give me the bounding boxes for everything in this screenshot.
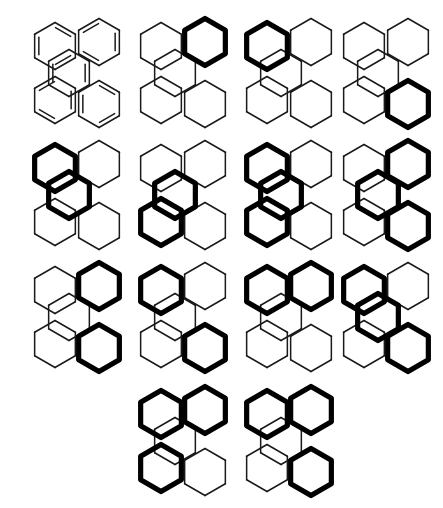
clar-structure-figure (0, 0, 443, 508)
aromatic-sextet-ring-UR (291, 387, 332, 434)
structure-5 (22, 134, 132, 256)
bond (35, 356, 55, 368)
bond (205, 263, 225, 275)
bond (344, 145, 364, 157)
aromatic-sextet-ring-LL (141, 445, 182, 492)
bond (55, 199, 75, 211)
structure-drawing-11 (234, 256, 344, 378)
aromatic-sextet-ring-LR (185, 325, 226, 372)
bond (185, 141, 205, 153)
aromatic-sextet-ring-LL (141, 199, 182, 246)
aromatic-sextet-ring-LL (247, 199, 288, 246)
structure-4 (331, 12, 441, 134)
bond (311, 19, 331, 31)
bond (185, 484, 205, 496)
bond (155, 294, 175, 306)
bond (311, 325, 331, 337)
bond (205, 484, 225, 496)
bond (79, 238, 99, 250)
bond (55, 112, 75, 124)
structure-12 (331, 256, 441, 378)
bond (185, 238, 205, 250)
bond (49, 329, 69, 341)
structure-14 (234, 380, 344, 502)
bond (291, 116, 311, 128)
bond (49, 85, 69, 97)
structure-7 (234, 134, 344, 256)
bond (247, 112, 267, 124)
bond (267, 77, 287, 89)
bond (35, 234, 55, 246)
bond (364, 112, 384, 124)
bond (261, 294, 281, 306)
aromatic-sextet-ring-UR (291, 263, 332, 310)
bond (344, 23, 364, 35)
aromatic-sextet-ring-LR (388, 325, 429, 372)
bond (261, 453, 281, 465)
structure-drawing-1 (22, 12, 132, 134)
bond (291, 360, 311, 372)
bond (205, 238, 225, 250)
structure-drawing-8 (331, 134, 441, 256)
bond (311, 141, 331, 153)
structure-13 (128, 380, 238, 502)
bond (291, 141, 311, 153)
bond (364, 58, 384, 70)
structure-drawing-13 (128, 380, 238, 502)
bond (79, 116, 99, 128)
bond (55, 356, 75, 368)
structure-2 (128, 12, 238, 134)
bond (161, 145, 181, 157)
bond (205, 141, 225, 153)
bond (408, 54, 428, 66)
bond (364, 145, 384, 157)
structure-11 (234, 256, 344, 378)
structure-drawing-9 (22, 256, 132, 378)
bond (311, 238, 331, 250)
aromatic-sextet-ring-LR (388, 81, 429, 128)
bond (99, 141, 119, 153)
structure-1 (22, 12, 132, 134)
aromatic-sextet-ring-LR (79, 325, 120, 372)
bond (99, 54, 119, 66)
bond (99, 19, 119, 31)
bond (205, 203, 225, 215)
bond (344, 112, 364, 124)
bond (267, 112, 287, 124)
bond (155, 85, 175, 97)
structure-drawing-4 (331, 12, 441, 134)
bond (99, 176, 119, 188)
bond (261, 50, 281, 62)
bond (311, 176, 331, 188)
aromatic-sextet-ring-UL (247, 267, 288, 314)
double-bond-inner-line (99, 86, 114, 95)
bond (261, 418, 281, 430)
double-bond-inner-line (55, 56, 70, 65)
structure-6 (128, 134, 238, 256)
bond (311, 54, 331, 66)
bond (291, 19, 311, 31)
bond (364, 199, 384, 211)
bond (55, 77, 75, 89)
bond (261, 329, 281, 341)
aromatic-sextet-ring-UR (185, 19, 226, 66)
bond (49, 294, 69, 306)
structure-drawing-14 (234, 380, 344, 502)
aromatic-sextet-ring-UR (79, 263, 120, 310)
bond (364, 23, 384, 35)
bond (161, 112, 181, 124)
bond (155, 453, 175, 465)
aromatic-sextet-ring-UR (185, 387, 226, 434)
aromatic-sextet-ring-C (49, 172, 90, 219)
bond (364, 321, 384, 333)
bond (311, 116, 331, 128)
aromatic-sextet-ring-C (155, 172, 196, 219)
bond (247, 356, 267, 368)
bond (161, 77, 181, 89)
bond (344, 356, 364, 368)
structure-drawing-6 (128, 134, 238, 256)
bond (155, 418, 175, 430)
structure-drawing-3 (234, 12, 344, 134)
bond (408, 263, 428, 275)
bond (79, 141, 99, 153)
